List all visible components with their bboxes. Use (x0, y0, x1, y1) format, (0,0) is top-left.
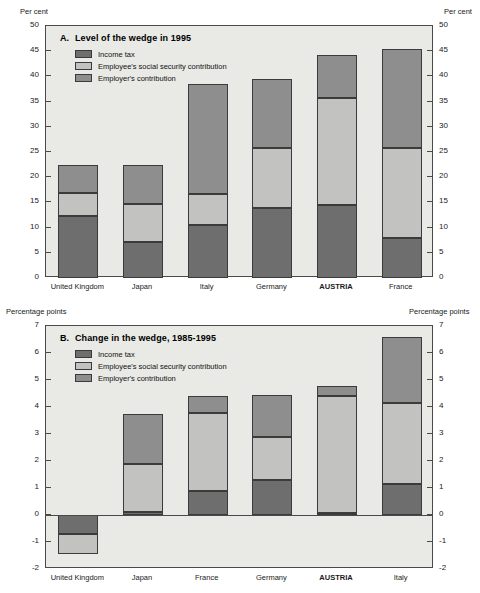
y-tick-mark (427, 176, 432, 177)
y-tick-label-right: 50 (439, 20, 463, 30)
y-tick-mark (427, 487, 432, 488)
bar-segment-income-tax (382, 238, 422, 278)
x-axis-category-label: France (174, 573, 239, 582)
panel-b-title: B.Change in the wedge, 1985-1995 (60, 333, 227, 343)
bar-segment-employee-ss (252, 437, 292, 480)
bar-segment-employer (252, 395, 292, 437)
bar-segment-employee-ss (317, 396, 357, 513)
bar-segment-income-tax (188, 491, 228, 515)
legend-swatch-income-tax-icon (75, 350, 92, 358)
panel-b-zero-line (46, 515, 432, 516)
x-axis-category-label: United Kingdom (45, 282, 110, 291)
panel-b-unit-left: Percentage points (6, 307, 66, 316)
y-tick-label-right: 35 (439, 96, 463, 106)
bar-segment-employer (123, 414, 163, 464)
y-tick-label-right: 7 (439, 320, 463, 330)
y-tick-mark (46, 75, 51, 76)
bar-segment-employee-ss (188, 194, 228, 224)
y-tick-mark (427, 541, 432, 542)
bar-segment-employee-ss (382, 403, 422, 484)
y-tick-label-left: 20 (17, 171, 39, 181)
y-tick-label-left: 1 (17, 482, 39, 492)
y-tick-label-left: 50 (17, 20, 39, 30)
panel-a: Per cent Per cent 5050454540403535303025… (0, 0, 480, 300)
panel-b-header: B.Change in the wedge, 1985-1995 Income … (60, 333, 227, 385)
panel-b-legend-label-income-tax: Income tax (98, 350, 135, 359)
panel-b-legend-item-employee-ss: Employee's social security contribution (75, 361, 227, 371)
panel-a-legend: Income tax Employee's social security co… (75, 49, 227, 83)
x-axis-category-label: Japan (110, 282, 175, 291)
y-tick-label-left: 40 (17, 70, 39, 80)
y-tick-label-right: 0 (439, 509, 463, 519)
panel-a-title-text: Level of the wedge in 1995 (75, 33, 191, 43)
y-tick-label-right: 45 (439, 45, 463, 55)
y-tick-mark (427, 201, 432, 202)
bar-segment-employee-ss (317, 98, 357, 205)
x-axis-category-label: Germany (239, 282, 304, 291)
bar-segment-income-tax (58, 515, 98, 534)
bar-segment-employee-ss (188, 413, 228, 491)
y-tick-mark (427, 151, 432, 152)
panel-a-legend-item-employer: Employer's contribution (75, 73, 227, 83)
bar-group (317, 26, 357, 278)
panel-b: Percentage points Percentage points 7766… (0, 300, 480, 593)
panel-a-unit-right: Per cent (444, 7, 472, 16)
panel-b-legend: Income tax Employee's social security co… (75, 349, 227, 383)
y-tick-label-left: 7 (17, 320, 39, 330)
y-tick-mark (46, 151, 51, 152)
y-tick-mark (46, 227, 51, 228)
y-tick-label-left: 15 (17, 196, 39, 206)
bar-segment-employer (382, 49, 422, 149)
panel-a-title: A.Level of the wedge in 1995 (60, 33, 227, 43)
x-axis-category-label: Italy (368, 573, 433, 582)
panel-b-legend-item-employer: Employer's contribution (75, 373, 227, 383)
bar-segment-income-tax (123, 242, 163, 278)
bar-segment-employer (317, 55, 357, 97)
y-tick-label-right: 4 (439, 401, 463, 411)
y-tick-mark (427, 406, 432, 407)
bar-segment-employer (252, 79, 292, 149)
panel-a-legend-label-income-tax: Income tax (98, 50, 135, 59)
panel-a-legend-label-employee-ss: Employee's social security contribution (98, 62, 227, 71)
y-tick-mark (46, 101, 51, 102)
y-tick-label-left: 10 (17, 222, 39, 232)
y-tick-label-left: 25 (17, 146, 39, 156)
bar-group (317, 326, 357, 569)
y-tick-mark (427, 126, 432, 127)
y-tick-mark (46, 433, 51, 434)
y-tick-label-right: 0 (439, 272, 463, 282)
y-tick-mark (427, 101, 432, 102)
y-tick-mark (427, 227, 432, 228)
y-tick-label-left: 6 (17, 347, 39, 357)
bar-segment-employer (123, 165, 163, 204)
bar-segment-income-tax (58, 216, 98, 278)
y-tick-label-left: 4 (17, 401, 39, 411)
y-tick-label-right: 15 (439, 196, 463, 206)
y-tick-mark (427, 252, 432, 253)
legend-swatch-income-tax-icon (75, 50, 92, 58)
y-tick-label-right: 25 (439, 146, 463, 156)
bar-segment-employer (58, 165, 98, 193)
y-tick-label-right: 1 (439, 482, 463, 492)
y-tick-label-left: 30 (17, 121, 39, 131)
x-axis-category-label: Italy (174, 282, 239, 291)
legend-swatch-employer-icon (75, 74, 92, 82)
bar-segment-income-tax (382, 484, 422, 515)
y-tick-mark (46, 352, 51, 353)
panel-b-unit-right: Percentage points (409, 307, 469, 316)
bar-group (382, 26, 422, 278)
bar-segment-employee-ss (382, 148, 422, 238)
bar-segment-employee-ss (123, 204, 163, 242)
bar-segment-employee-ss (58, 534, 98, 554)
bar-segment-employer (317, 386, 357, 396)
y-tick-mark (46, 126, 51, 127)
y-tick-mark (427, 433, 432, 434)
x-axis-category-label: Japan (110, 573, 175, 582)
y-tick-label-right: 2 (439, 455, 463, 465)
y-tick-mark (46, 406, 51, 407)
panel-b-legend-item-income-tax: Income tax (75, 349, 227, 359)
y-tick-mark (46, 514, 51, 515)
legend-swatch-employee-ss-icon (75, 362, 92, 370)
bar-segment-employee-ss (58, 193, 98, 216)
y-tick-label-left: 3 (17, 428, 39, 438)
